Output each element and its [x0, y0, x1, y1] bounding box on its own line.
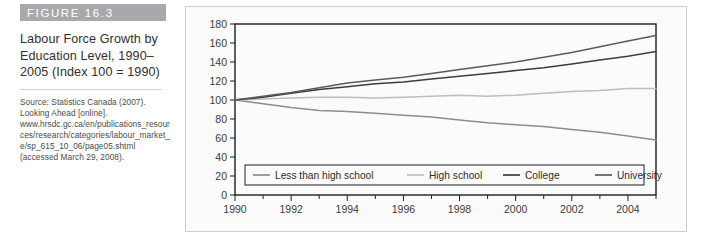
y-axis-tick-label: 0 [221, 189, 227, 201]
y-axis-tick-label: 80 [215, 113, 227, 125]
legend-label-college: College [525, 170, 560, 181]
y-axis-tick-label: 120 [209, 75, 227, 87]
x-axis-tick-label: 1990 [223, 203, 247, 215]
caption-divider [20, 89, 162, 90]
y-axis-tick-label: 140 [209, 56, 227, 68]
x-axis-tick-label: 2004 [616, 203, 640, 215]
figure-source-note: Source: Statistics Canada (2007). Lookin… [20, 97, 170, 164]
figure-number-bar: FIGURE 16.3 [20, 4, 166, 21]
x-axis-tick-label: 1998 [448, 203, 472, 215]
x-axis-tick-label: 2002 [560, 203, 584, 215]
y-axis-tick-label: 20 [215, 170, 227, 182]
y-axis-tick-label: 60 [215, 132, 227, 144]
x-axis-tick-label: 1996 [392, 203, 416, 215]
y-axis-tick-label: 40 [215, 151, 227, 163]
y-axis-ticks: 020406080100120140160180 [209, 18, 235, 201]
chart-legend: Less than high schoolHigh schoolCollegeU… [245, 165, 663, 185]
series-line-high-school [235, 89, 656, 100]
x-axis-tick-label: 1992 [279, 203, 303, 215]
line-chart: 020406080100120140160180 199019921994199… [186, 7, 686, 231]
x-axis-tick-label: 1994 [336, 203, 360, 215]
series-line-less-than-high-school [235, 100, 656, 140]
chart-series-group [235, 35, 656, 139]
chart-panel: 020406080100120140160180 199019921994199… [185, 6, 687, 232]
x-axis-ticks: 19901992199419961998200020022004 [223, 195, 656, 215]
figure-container: FIGURE 16.3 Labour Force Growth by Educa… [0, 0, 702, 240]
figure-number-label: FIGURE 16.3 [27, 7, 114, 19]
legend-label-university: University [617, 170, 663, 181]
legend-label-high-school: High school [429, 170, 482, 181]
figure-title: Labour Force Growth by Education Level, … [20, 31, 170, 81]
x-axis-tick-label: 2000 [504, 203, 528, 215]
y-axis-tick-label: 180 [209, 18, 227, 30]
figure-caption-column: FIGURE 16.3 Labour Force Growth by Educa… [20, 4, 170, 236]
y-axis-tick-label: 100 [209, 94, 227, 106]
legend-label-less-than-high-school: Less than high school [275, 170, 374, 181]
y-axis-tick-label: 160 [209, 37, 227, 49]
series-line-college [235, 52, 656, 100]
